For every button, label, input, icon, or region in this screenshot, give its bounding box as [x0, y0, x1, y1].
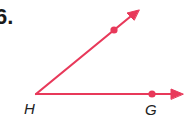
upper-ray-point [110, 26, 117, 33]
point-label-g: G [145, 101, 157, 118]
angle-figure: H G [0, 0, 188, 121]
upper-ray [36, 12, 136, 94]
lower-ray-arrowhead-icon [171, 89, 183, 99]
vertex-label-h: H [24, 100, 35, 117]
point-g [148, 90, 155, 97]
